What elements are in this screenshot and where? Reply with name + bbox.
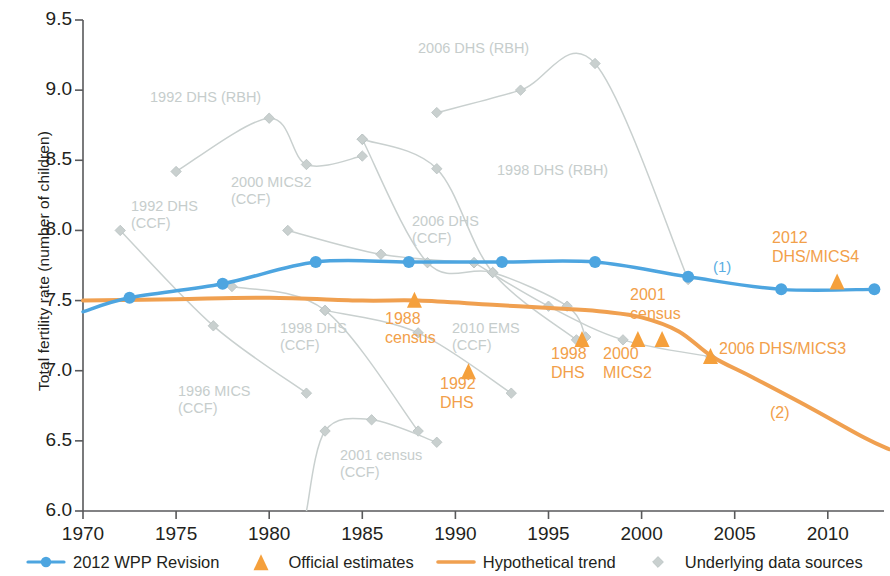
legend-item: 2012 WPP Revision: [26, 553, 219, 572]
y-tick-label: 6.5: [20, 429, 72, 451]
y-tick-label: 9.5: [20, 8, 72, 30]
ann-1988-census: 1988 census: [385, 309, 436, 347]
ann-1998-dhs: 1998 DHS: [551, 344, 587, 382]
x-tick-label: 2005: [695, 523, 775, 545]
y-tick-label: 7.0: [20, 359, 72, 381]
ann-2006-dhs-mics3: 2006 DHS/MICS3: [719, 339, 846, 358]
legend-item: Hypothetical trend: [436, 553, 616, 572]
legend-diamond-icon: [638, 553, 678, 571]
ann-2012-dhs-mics4: 2012 DHS/MICS4: [772, 228, 859, 266]
x-tick-label: 1995: [509, 523, 589, 545]
ann-1992-dhs: 1992 DHS: [440, 374, 476, 412]
legend-item: Official estimates: [241, 553, 413, 572]
ann-2006-dhs-ccf: 2006 DHS (CCF): [412, 213, 479, 247]
legend-triangle-icon: [241, 553, 281, 571]
legend-item: Underlying data sources: [638, 553, 863, 572]
chart-figure: Total fertility rate (number of children…: [0, 0, 890, 576]
x-tick-label: 2010: [788, 523, 868, 545]
y-tick-label: 7.5: [20, 289, 72, 311]
plot-area: [0, 0, 890, 576]
legend-label: Underlying data sources: [685, 553, 863, 572]
y-tick-label: 9.0: [20, 78, 72, 100]
official-estimate-marker: [830, 274, 845, 290]
y-tick-label: 8.0: [20, 218, 72, 240]
ann-1998-dhs-ccf: 1998 DHS (CCF): [280, 320, 347, 354]
series-1992-dhs-rbh-: [171, 113, 368, 177]
ann-2001-census: 2001 census: [630, 285, 681, 323]
ann-1996-mics-ccf: 1996 MICS (CCF): [178, 383, 251, 417]
x-tick-label: 1975: [136, 523, 216, 545]
ann-2000-mics2: 2000 MICS2: [603, 344, 652, 382]
ann-2000-mics2-ccf: 2000 MICS2 (CCF): [231, 174, 312, 208]
official-estimate-marker: [655, 331, 670, 347]
ann-1992-dhs-ccf: 1992 DHS (CCF): [131, 198, 198, 232]
x-tick-label: 1980: [229, 523, 309, 545]
ann-2006-dhs-rbh: 2006 DHS (RBH): [418, 40, 529, 57]
x-tick-label: 2000: [602, 523, 682, 545]
legend-line-icon: [436, 553, 476, 571]
x-tick-label: 1985: [322, 523, 402, 545]
ann-note-2: (2): [770, 403, 790, 422]
series-1992-dhs-ccf-: [115, 225, 312, 398]
x-tick-label: 1990: [415, 523, 495, 545]
legend-line-circle-icon: [26, 553, 66, 571]
y-tick-label: 8.5: [20, 148, 72, 170]
chart-legend: 2012 WPP RevisionOfficial estimatesHypot…: [0, 548, 890, 576]
ann-1992-dhs-rbh: 1992 DHS (RBH): [150, 89, 261, 106]
legend-label: Hypothetical trend: [483, 553, 616, 572]
ann-2010-ems-ccf: 2010 EMS (CCF): [452, 320, 520, 354]
ann-1998-dhs-rbh: 1998 DHS (RBH): [497, 162, 608, 179]
y-tick-label: 6.0: [20, 499, 72, 521]
x-tick-label: 1970: [43, 523, 123, 545]
legend-label: 2012 WPP Revision: [73, 553, 219, 572]
legend-label: Official estimates: [288, 553, 413, 572]
ann-2001-census-ccf: 2001 census (CCF): [340, 447, 422, 481]
ann-note-1: (1): [713, 258, 731, 275]
